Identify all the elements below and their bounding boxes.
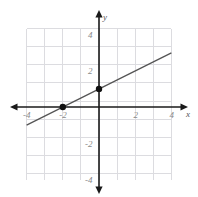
- x-tick-label-neg4: -4: [23, 111, 31, 120]
- coordinate-plane-graph: -4 -2 2 4 4 2 -2 -4 y x: [0, 0, 198, 197]
- x-tick-label-neg2: -2: [59, 111, 67, 120]
- graph-canvas: [0, 0, 198, 197]
- y-tick-label-pos4: 4: [88, 31, 93, 40]
- data-point-y-intercept: [96, 86, 102, 92]
- x-axis-arrow-left: [10, 103, 18, 110]
- y-tick-label-pos2: 2: [88, 67, 93, 76]
- x-tick-label-pos4: 4: [170, 111, 175, 120]
- y-axis-arrow-down: [95, 187, 102, 195]
- axes: [14, 14, 185, 191]
- y-axis-arrow-up: [95, 10, 102, 18]
- x-tick-label-pos2: 2: [133, 111, 138, 120]
- y-tick-label-neg4: -4: [85, 176, 93, 185]
- x-axis-label: x: [186, 110, 190, 119]
- y-axis-label: y: [103, 13, 107, 22]
- y-tick-label-neg2: -2: [85, 140, 93, 149]
